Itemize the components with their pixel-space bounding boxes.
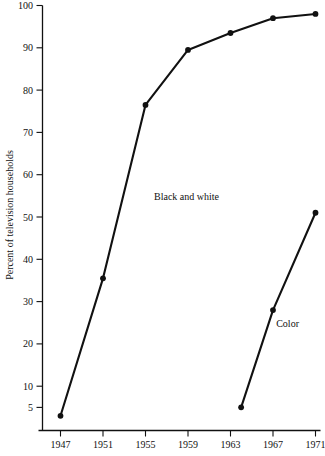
y-tick-label: 70 bbox=[23, 127, 33, 138]
x-axis-ticks bbox=[61, 431, 316, 437]
x-tick-label: 1947 bbox=[51, 439, 71, 450]
y-axis-ticks bbox=[37, 6, 43, 408]
x-tick-label: 1951 bbox=[93, 439, 113, 450]
data-point bbox=[313, 11, 319, 17]
data-point bbox=[238, 404, 244, 410]
chart-page: Percent of television households 100 90 … bbox=[0, 0, 325, 456]
series-color bbox=[238, 210, 318, 410]
data-point bbox=[185, 47, 191, 53]
y-tick-label: 50 bbox=[23, 212, 33, 223]
series-annotation: Black and white bbox=[154, 191, 220, 202]
x-tick-label: 1963 bbox=[221, 439, 241, 450]
y-axis-title: Percent of television households bbox=[4, 150, 15, 280]
x-tick-label: 1955 bbox=[136, 439, 156, 450]
data-point bbox=[58, 413, 64, 419]
x-axis-tick-labels: 1947 1951 1955 1959 1963 1967 1971 bbox=[51, 439, 325, 450]
series-annotation: Color bbox=[276, 318, 299, 329]
line-chart: Percent of television households 100 90 … bbox=[0, 0, 325, 456]
data-point bbox=[313, 210, 319, 216]
data-point bbox=[143, 102, 149, 108]
annotation-layer: Black and whiteColor bbox=[154, 191, 300, 329]
y-tick-label: 20 bbox=[23, 338, 33, 349]
y-axis-tick-labels: 100 90 80 70 60 50 40 30 20 10 5 bbox=[18, 0, 33, 413]
x-tick-label: 1971 bbox=[306, 439, 325, 450]
y-tick-label: 100 bbox=[18, 0, 33, 11]
data-point bbox=[270, 307, 276, 313]
y-tick-label: 10 bbox=[23, 381, 33, 392]
y-tick-label: 80 bbox=[23, 85, 33, 96]
y-tick-label: 30 bbox=[23, 296, 33, 307]
data-point bbox=[270, 15, 276, 21]
x-tick-label: 1959 bbox=[178, 439, 198, 450]
y-tick-label: 60 bbox=[23, 169, 33, 180]
series-line bbox=[241, 213, 315, 408]
data-point bbox=[228, 30, 234, 36]
data-point bbox=[100, 275, 106, 281]
y-tick-label: 90 bbox=[23, 42, 33, 53]
series-line bbox=[61, 14, 316, 416]
y-tick-label: 5 bbox=[28, 402, 33, 413]
series-layer bbox=[58, 11, 319, 419]
y-tick-label: 40 bbox=[23, 254, 33, 265]
x-tick-label: 1967 bbox=[263, 439, 283, 450]
series-black-and-white bbox=[58, 11, 319, 419]
